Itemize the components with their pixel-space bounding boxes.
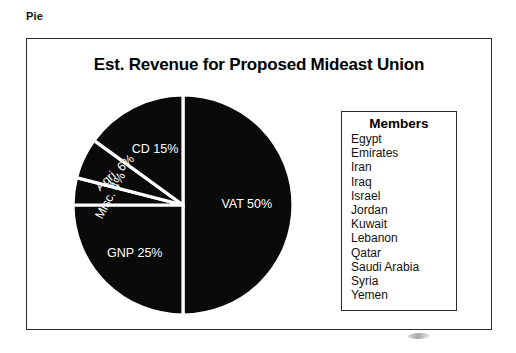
legend-box: Members EgyptEmiratesIranIraqIsraelJorda… (341, 111, 457, 311)
pie-slice-label: VAT 50% (221, 197, 272, 211)
legend-item: Iran (351, 160, 456, 174)
legend-item: Kuwait (351, 217, 456, 231)
legend-item: Emirates (351, 146, 456, 160)
legend-item: Saudi Arabia (351, 260, 456, 274)
legend-item: Egypt (351, 132, 456, 146)
legend-item: Lebanon (351, 231, 456, 245)
pie-slice-gnp (73, 205, 183, 315)
chart-frame: Est. Revenue for Proposed Mideast Union … (26, 38, 492, 330)
legend-title: Members (342, 116, 456, 131)
pie-chart: VAT 50%GNP 25%Misc. 4%Agri. 6%CD 15% (67, 93, 299, 317)
chart-title: Est. Revenue for Proposed Mideast Union (27, 55, 491, 75)
pie-slice-label: GNP 25% (107, 246, 162, 260)
legend-item: Israel (351, 189, 456, 203)
pie-slice-label: CD 15% (132, 142, 179, 156)
legend-item: Yemen (351, 288, 456, 302)
pie-svg: VAT 50%GNP 25%Misc. 4%Agri. 6%CD 15% (67, 93, 299, 317)
legend-list: EgyptEmiratesIranIraqIsraelJordanKuwaitL… (342, 132, 456, 302)
legend-item: Syria (351, 274, 456, 288)
scan-artifact (408, 333, 430, 339)
legend-item: Jordan (351, 203, 456, 217)
section-label: Pie (26, 10, 43, 22)
legend-item: Qatar (351, 246, 456, 260)
legend-item: Iraq (351, 175, 456, 189)
